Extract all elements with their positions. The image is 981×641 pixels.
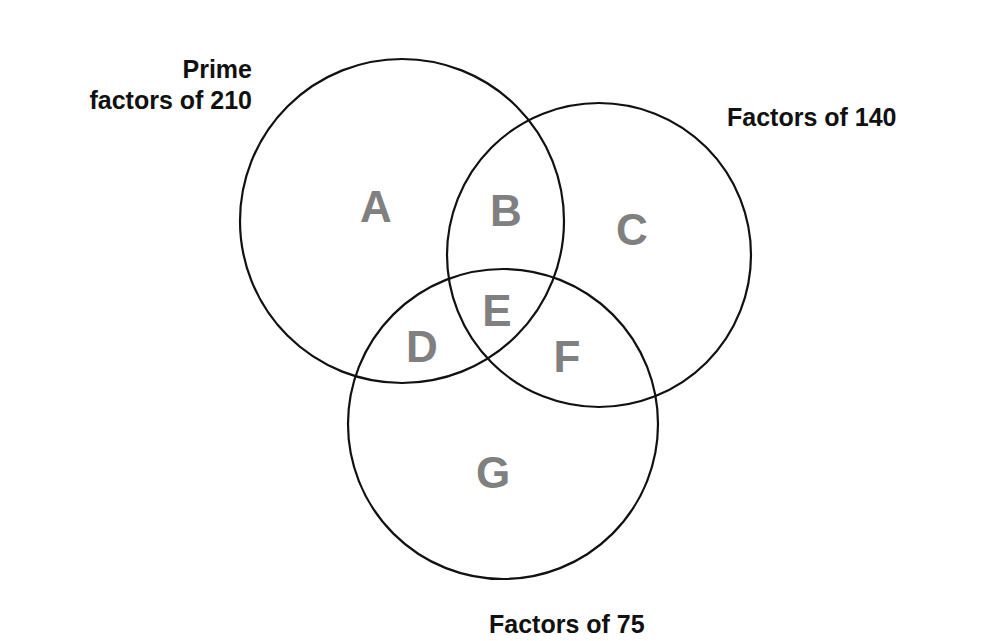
region-a: A [360,182,392,231]
region-g: G [476,448,510,497]
region-b: B [490,186,522,235]
label-line-1: Prime [89,54,252,85]
region-c: C [616,205,648,254]
region-e: E [482,286,511,335]
region-f: F [554,332,581,381]
label-factors-140: Factors of 140 [727,102,897,133]
label-line-2: factors of 210 [89,85,252,116]
label-factors-75: Factors of 75 [489,609,645,640]
circle-factors-140 [447,103,751,407]
label-prime-factors-210: Prime factors of 210 [89,54,252,116]
region-d: D [406,322,438,371]
